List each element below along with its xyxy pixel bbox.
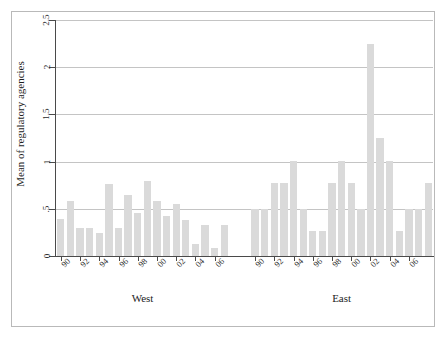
bar	[309, 231, 316, 256]
y-tick-label-wrap: .5	[28, 204, 46, 214]
bar	[251, 209, 258, 256]
bar	[348, 183, 355, 256]
y-tick-label-wrap: 1	[28, 157, 46, 167]
y-axis-tick-label: 0	[41, 254, 51, 259]
y-axis-tick-label: 2.5	[41, 14, 51, 25]
y-tick-label-wrap: 0	[28, 251, 46, 261]
y-axis-tick-label: 2	[41, 65, 51, 70]
y-axis-label: Mean of regulatory agencies	[14, 24, 26, 224]
bar	[425, 183, 432, 256]
group-label-east: East	[250, 292, 433, 304]
bar	[300, 209, 307, 256]
bar	[105, 184, 112, 256]
y-tick-label-wrap: 2	[28, 62, 46, 72]
bar	[144, 181, 151, 256]
bar	[115, 228, 122, 256]
bar	[261, 209, 268, 256]
bar	[290, 161, 297, 256]
y-axis-line	[55, 20, 56, 257]
group-label-west: West	[56, 292, 229, 304]
y-tick-label-wrap: 1.5	[28, 109, 46, 119]
bar	[319, 231, 326, 256]
y-axis-tick-label: .5	[41, 205, 51, 212]
bar	[124, 195, 131, 256]
bar	[67, 201, 74, 256]
y-axis-tick-label: 1	[41, 159, 51, 164]
bar	[396, 231, 403, 256]
bar	[86, 228, 93, 256]
gridline	[56, 114, 433, 115]
bar	[415, 209, 422, 256]
x-axis-line	[55, 256, 434, 257]
bar	[386, 161, 393, 256]
bar	[173, 204, 180, 256]
bar	[134, 213, 141, 256]
bar	[376, 138, 383, 256]
bar	[405, 209, 412, 256]
bar	[163, 216, 170, 256]
bar	[201, 225, 208, 256]
bar	[153, 201, 160, 256]
bar	[357, 209, 364, 256]
gridline	[56, 67, 433, 68]
bar	[211, 248, 218, 256]
bar	[280, 183, 287, 256]
y-tick-label-wrap: 2.5	[28, 15, 46, 25]
plot-area	[56, 20, 433, 256]
bar	[271, 183, 278, 256]
bar	[76, 228, 83, 256]
bar	[96, 233, 103, 256]
bar	[57, 219, 64, 256]
y-axis-tick-label: 1.5	[41, 109, 51, 120]
bar	[328, 183, 335, 256]
bar	[338, 161, 345, 256]
bar	[221, 225, 228, 256]
chart-figure: Mean of regulatory agencies West East 0.…	[0, 0, 447, 340]
bar	[182, 220, 189, 256]
bar	[192, 244, 199, 256]
gridline	[56, 20, 433, 21]
bar	[367, 44, 374, 256]
